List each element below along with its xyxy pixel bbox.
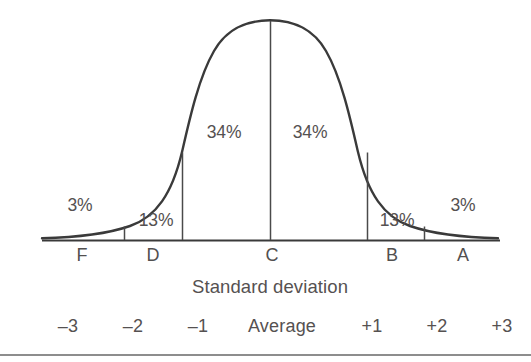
percent-label-d: 13% [139, 212, 174, 230]
percent-label-c-left: 34% [207, 124, 242, 142]
tick-label-plus3: +3 [492, 317, 513, 335]
tick-label-plus2: +2 [427, 317, 448, 335]
tick-label-average: Average [248, 317, 316, 335]
tick-label-minus3: –3 [58, 317, 78, 335]
grade-label-a: A [457, 246, 469, 264]
grade-label-b: B [386, 246, 398, 264]
percent-label-f: 3% [67, 197, 92, 215]
x-axis-title: Standard deviation [192, 278, 348, 297]
grade-label-c: C [266, 246, 279, 264]
percent-label-a: 3% [450, 197, 475, 215]
tick-label-minus2: –2 [123, 317, 143, 335]
percent-label-b: 13% [380, 212, 415, 230]
percent-label-c-right: 34% [293, 124, 328, 142]
tick-label-plus1: +1 [362, 317, 383, 335]
grade-label-f: F [77, 246, 88, 264]
bell-curve-figure: 3% 13% 34% 34% 13% 3% F D C B A Standard… [0, 0, 531, 362]
bell-curve-graphic [0, 0, 531, 362]
grade-label-d: D [147, 246, 160, 264]
tick-label-minus1: –1 [188, 317, 208, 335]
bottom-divider-rule [0, 354, 531, 356]
